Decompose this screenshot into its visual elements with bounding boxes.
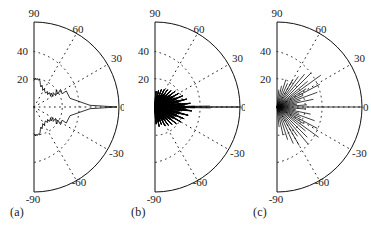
panel-c-plot: 90 60 30 0 -30 -60 -90 40 20 [243, 0, 371, 233]
radial-label-20: 20 [138, 73, 150, 85]
panel-c-labels: 90 60 30 0 -30 -60 -90 40 20 [260, 7, 369, 205]
angle-label-90: 90 [272, 7, 284, 19]
grid-ray-30 [34, 65, 108, 108]
angle-label-90: 90 [150, 7, 162, 19]
angle-label-60: 60 [316, 23, 328, 35]
grid-ray-30 [277, 65, 351, 108]
panel-c-trace-group [277, 73, 362, 145]
grid-ray-neg30 [277, 107, 351, 150]
panel-c: 90 60 30 0 -30 -60 -90 40 20 (c) [243, 0, 367, 233]
angle-label-60: 60 [73, 23, 85, 35]
grid-ray-neg60 [34, 107, 77, 181]
radial-label-20: 20 [17, 73, 29, 85]
angle-label-90: 90 [29, 7, 41, 19]
angle-label-neg60: -60 [72, 176, 87, 188]
angle-label-0: 0 [363, 101, 369, 113]
angle-label-30: 30 [354, 52, 366, 64]
grid-arc-20 [34, 79, 62, 136]
angle-label-60: 60 [194, 23, 206, 35]
panel-caption-c: (c) [253, 205, 267, 220]
panel-b: 90 60 30 0 -30 -60 -90 40 20 (b) [121, 0, 245, 233]
panel-a-labels: 90 60 30 0 -30 -60 -90 40 20 [17, 7, 124, 205]
angle-label-neg60: -60 [193, 176, 208, 188]
panel-b-plot: 90 60 30 0 -30 -60 -90 40 20 [121, 0, 245, 233]
panel-caption-a: (a) [10, 205, 24, 220]
angle-label-neg90: -90 [26, 193, 41, 205]
panel-caption-b: (b) [131, 205, 146, 220]
polar-figure: 90 60 30 0 -30 -60 -90 40 20 (a) [0, 0, 371, 233]
panel-a-plot: 90 60 30 0 -30 -60 -90 40 20 [0, 0, 124, 233]
angle-label-neg90: -90 [147, 193, 162, 205]
radial-label-40: 40 [17, 45, 29, 57]
angle-label-neg90: -90 [269, 193, 284, 205]
angle-label-neg30: -30 [352, 147, 367, 159]
angle-label-neg60: -60 [315, 176, 330, 188]
radial-label-40: 40 [138, 45, 150, 57]
grid-arc-40 [34, 52, 79, 163]
panel-a-grid [34, 22, 119, 192]
grid-ray-neg30 [34, 107, 108, 150]
radial-label-20: 20 [260, 73, 272, 85]
panel-a: 90 60 30 0 -30 -60 -90 40 20 (a) [0, 0, 124, 233]
panel-b-trace-group [155, 89, 240, 126]
radial-label-40: 40 [260, 45, 272, 57]
angle-label-30: 30 [232, 52, 244, 64]
grid-ray-60 [34, 33, 77, 107]
